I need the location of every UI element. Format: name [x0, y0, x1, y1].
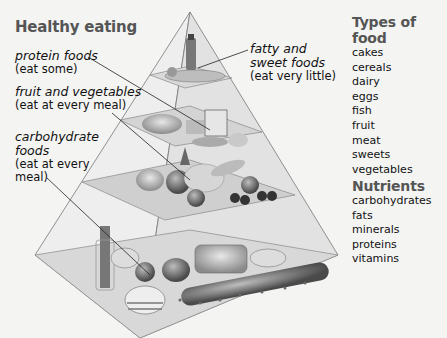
list-item: fats: [352, 209, 432, 224]
label-carbohydrate-foods: carbohydrate foods (eat at every meal): [15, 130, 99, 184]
fatty-advice: (eat very little): [250, 70, 336, 83]
list-item: carbohydrates: [352, 194, 432, 209]
protein-name: protein foods: [15, 49, 98, 63]
nutrients-heading: Nutrients: [352, 178, 432, 194]
list-item: minerals: [352, 223, 432, 238]
label-protein-foods: protein foods (eat some): [15, 49, 98, 76]
list-item: cakes: [352, 46, 447, 61]
label-fatty-sweet-foods: fatty and sweet foods (eat very little): [250, 42, 336, 83]
list-item: eggs: [352, 90, 447, 105]
nutrients-panel: Nutrients carbohydrates fats minerals pr…: [352, 178, 432, 267]
types-of-food-panel: Types of food cakes cereals dairy eggs f…: [352, 14, 447, 177]
types-of-food-heading: Types of food: [352, 14, 447, 46]
carb-name-1: carbohydrate: [15, 130, 99, 144]
nutrients-list: carbohydrates fats minerals proteins vit…: [352, 194, 432, 267]
carb-advice-2: meal): [15, 171, 99, 184]
list-item: dairy: [352, 75, 447, 90]
list-item: sweets: [352, 148, 447, 163]
page-title: Healthy eating: [15, 18, 137, 36]
list-item: cereals: [352, 61, 447, 76]
fatty-name-1: fatty and: [250, 42, 336, 56]
list-item: proteins: [352, 238, 432, 253]
carb-name-2: foods: [15, 144, 99, 158]
list-item: vegetables: [352, 163, 447, 178]
list-item: fruit: [352, 119, 447, 134]
list-item: meat: [352, 134, 447, 149]
list-item: fish: [352, 104, 447, 119]
protein-advice: (eat some): [15, 63, 98, 76]
fatty-name-2: sweet foods: [250, 56, 336, 70]
label-fruit-vegetables: fruit and vegetables (eat at every meal): [15, 85, 141, 112]
fruitveg-name: fruit and vegetables: [15, 85, 141, 99]
list-item: vitamins: [352, 252, 432, 267]
types-of-food-list: cakes cereals dairy eggs fish fruit meat…: [352, 46, 447, 177]
fruitveg-advice: (eat at every meal): [15, 99, 141, 112]
